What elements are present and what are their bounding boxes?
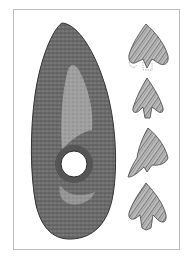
illustration-canvas — [0, 0, 194, 263]
arrowhead-4 — [129, 183, 166, 230]
stone-axe-hammer — [31, 23, 115, 239]
arrowhead-1 — [129, 24, 168, 70]
arrowhead-3 — [128, 128, 168, 177]
shaft-hole — [61, 151, 87, 177]
arrowhead-2 — [133, 78, 163, 118]
